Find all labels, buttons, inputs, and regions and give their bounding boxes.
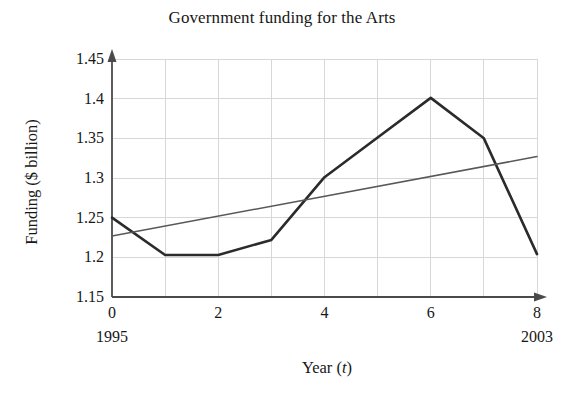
y-tick-label: 1.45 <box>48 51 104 67</box>
x-axis-arrowhead <box>534 293 547 302</box>
y-tick-label: 1.25 <box>48 210 104 226</box>
y-tick-label: 1.4 <box>48 91 104 107</box>
y-tick-label: 1.15 <box>48 289 104 305</box>
chart-figure: Government funding for the Arts Funding … <box>0 0 564 397</box>
x-axis-year-label: 1995 <box>77 329 147 345</box>
x-axis-year-label: 2003 <box>502 329 564 345</box>
y-axis-arrowhead <box>108 49 117 62</box>
x-tick-label: 2 <box>198 305 238 321</box>
y-tick-label: 1.3 <box>48 170 104 186</box>
x-tick-label: 6 <box>411 305 451 321</box>
y-tick-label: 1.2 <box>48 249 104 265</box>
x-tick-label: 0 <box>92 305 132 321</box>
x-tick-label: 4 <box>305 305 345 321</box>
y-tick-label: 1.35 <box>48 130 104 146</box>
x-tick-label: 8 <box>517 305 557 321</box>
